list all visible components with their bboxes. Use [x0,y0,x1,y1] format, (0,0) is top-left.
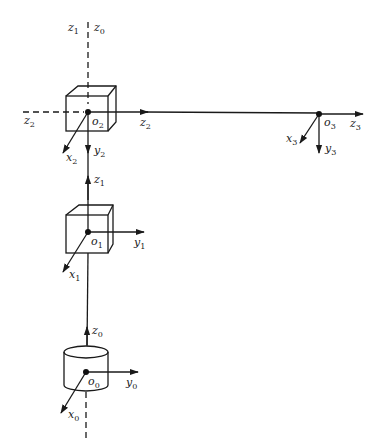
x3-axis [300,114,319,143]
label-z1-top: z1 [67,21,79,36]
label-z2-back: z2 [23,114,35,129]
label-z3: z3 [349,117,361,132]
cube-link-2 [66,86,116,131]
label-z0: z0 [91,324,103,339]
x2-axis [63,112,88,153]
label-z2: z2 [139,116,151,131]
label-x0: x0 [68,408,79,423]
z2-axis-line [145,112,319,113]
label-x2: x2 [66,151,77,166]
cube-link-1 [66,205,113,253]
label-y1: y1 [133,236,145,251]
label-x3: x3 [286,132,297,147]
x0-axis [61,372,86,413]
label-z0-top: z0 [93,21,105,36]
x1-axis [63,232,88,272]
label-y0: y0 [125,376,137,391]
label-o2: o2 [92,115,104,130]
cylinder-base [64,346,108,391]
origin-o2 [85,109,91,115]
label-y3: y3 [324,142,336,157]
label-y2: y2 [93,144,105,159]
label-z1: z1 [93,173,105,188]
label-o3: o3 [324,116,336,131]
origin-o3 [316,111,322,117]
manipulator-frames-diagram: z1 z0 z2 z2 x2 y2 o2 z1 y1 x1 o1 z0 [0,0,383,443]
label-x1: x1 [69,268,80,283]
label-o1: o1 [91,235,103,250]
label-o0: o0 [88,375,100,390]
